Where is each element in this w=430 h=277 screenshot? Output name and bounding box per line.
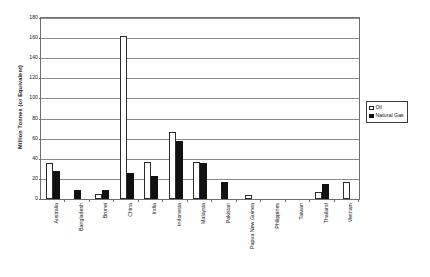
- bar-oil: [120, 36, 127, 199]
- bar-group: [212, 18, 236, 199]
- x-tick-mark: [113, 199, 114, 202]
- x-tick-mark: [64, 199, 65, 202]
- bar-group: [310, 18, 334, 199]
- legend: OilNatural Gas: [366, 101, 408, 123]
- legend-label: Natural Gas: [376, 113, 404, 118]
- bar-oil: [193, 162, 200, 199]
- x-tick-label: Brunei: [103, 203, 108, 218]
- x-tick-mark: [309, 199, 310, 202]
- bar-natural-gas: [127, 173, 134, 199]
- x-tick-label: Philippines: [275, 203, 280, 229]
- bar-series-container: [41, 18, 359, 199]
- bar-oil: [95, 194, 102, 199]
- bar-oil: [169, 132, 176, 199]
- x-tick-mark: [211, 199, 212, 202]
- y-tick-label: 40: [32, 156, 38, 161]
- x-tick-label: Papua New Guinea: [250, 203, 255, 249]
- x-tick-label: Vietnam: [348, 203, 353, 222]
- y-tick-label: 0: [35, 196, 38, 201]
- bar-natural-gas: [176, 141, 183, 199]
- x-tick-mark: [89, 199, 90, 202]
- legend-item: Natural Gas: [369, 112, 404, 120]
- y-tick-label: 180: [29, 15, 38, 20]
- x-tick-label: Taiwan: [299, 203, 304, 220]
- y-tick-label: 140: [29, 56, 38, 61]
- bar-natural-gas: [53, 171, 60, 199]
- bar-group: [335, 18, 359, 199]
- x-tick-label: Malaysia: [201, 203, 206, 224]
- x-tick-label: Pakistan: [226, 203, 231, 223]
- bar-natural-gas: [221, 182, 228, 199]
- x-tick-label: Bangladesh: [79, 203, 84, 231]
- bar-group: [90, 18, 114, 199]
- x-tick-label: India: [152, 203, 157, 215]
- legend-swatch-gas: [369, 114, 374, 119]
- bar-group: [286, 18, 310, 199]
- y-tick-label: 80: [32, 116, 38, 121]
- y-tick-mark: [39, 199, 42, 200]
- y-axis-title: Million Tonnes (or Equivalent): [14, 14, 26, 200]
- y-tick-label: 160: [29, 36, 38, 41]
- bar-group: [139, 18, 163, 199]
- bar-natural-gas: [102, 190, 109, 199]
- y-tick-label: 20: [32, 176, 38, 181]
- bar-group: [237, 18, 261, 199]
- legend-swatch-oil: [369, 106, 374, 111]
- x-tick-label: Australia: [54, 203, 59, 224]
- bar-natural-gas: [322, 184, 329, 199]
- bar-chart: Million Tonnes (or Equivalent) 020406080…: [0, 0, 430, 277]
- legend-label: Oil: [376, 105, 382, 110]
- x-tick-mark: [187, 199, 188, 202]
- x-tick-mark: [236, 199, 237, 202]
- x-tick-mark: [285, 199, 286, 202]
- legend-item: Oil: [369, 104, 404, 112]
- bar-oil: [343, 182, 350, 199]
- y-axis-title-label: Million Tonnes (or Equivalent): [17, 65, 23, 149]
- bar-group: [261, 18, 285, 199]
- bar-group: [188, 18, 212, 199]
- bar-oil: [245, 195, 252, 199]
- x-tick-label: Thailand: [324, 203, 329, 223]
- y-tick-label: 120: [29, 76, 38, 81]
- bar-oil: [144, 162, 151, 199]
- bar-natural-gas: [200, 163, 207, 199]
- bar-group: [41, 18, 65, 199]
- x-tick-mark: [358, 199, 359, 202]
- x-tick-label: China: [128, 203, 133, 217]
- bar-group: [163, 18, 187, 199]
- x-tick-label: Indonesia: [177, 203, 182, 226]
- y-tick-label: 60: [32, 136, 38, 141]
- plot-area: 020406080100120140160180: [40, 17, 360, 200]
- bar-group: [65, 18, 89, 199]
- bar-oil: [46, 163, 53, 199]
- x-tick-mark: [334, 199, 335, 202]
- bar-oil: [315, 192, 322, 199]
- bar-group: [114, 18, 138, 199]
- y-tick-label: 100: [29, 96, 38, 101]
- x-tick-mark: [162, 199, 163, 202]
- bar-natural-gas: [151, 176, 158, 199]
- x-tick-mark: [260, 199, 261, 202]
- x-tick-mark: [138, 199, 139, 202]
- bar-natural-gas: [74, 190, 81, 199]
